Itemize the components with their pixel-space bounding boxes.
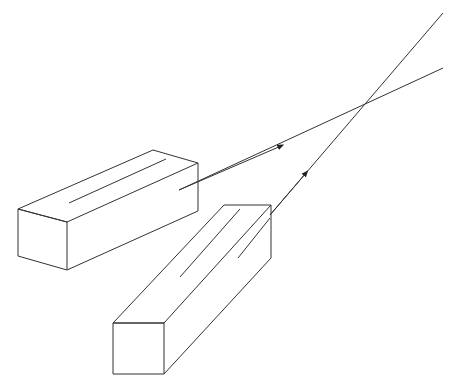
beams-diagram xyxy=(0,0,455,388)
ray-1 xyxy=(179,68,443,190)
ray-2 xyxy=(270,13,443,215)
source-box-2 xyxy=(113,205,271,374)
source-box-1 xyxy=(18,150,198,270)
diagram-canvas xyxy=(0,0,455,388)
